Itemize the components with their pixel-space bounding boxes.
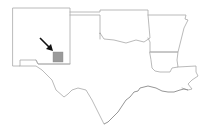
- gulf-coast: [104, 86, 188, 124]
- louisiana-east-border: [178, 66, 198, 90]
- highlighted-region: [53, 52, 63, 62]
- texas-border: [20, 33, 104, 124]
- oklahoma-border: [70, 10, 150, 43]
- louisiana-border: [150, 52, 178, 72]
- locator-map: [0, 0, 212, 134]
- arkansas-border: [148, 15, 188, 52]
